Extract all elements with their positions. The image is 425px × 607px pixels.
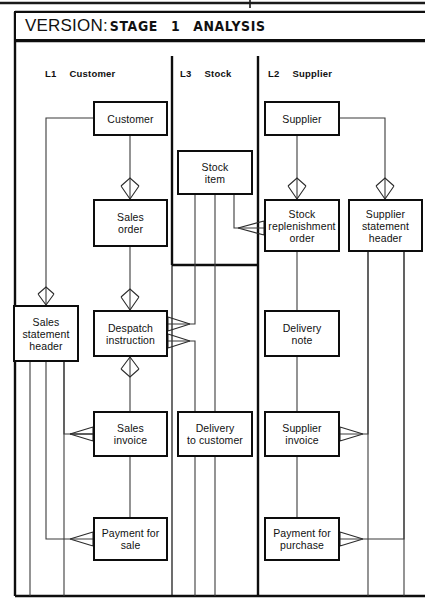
entity-supplier[interactable]: Supplier [264, 101, 340, 136]
entity-label-sales-statement-header: Salesstatementheader [20, 316, 71, 352]
version-phase: ANALYSIS [193, 18, 265, 34]
lane-header-supplier: L2Supplier [268, 68, 332, 79]
entity-label-sales-invoice: Salesinvoice [112, 422, 149, 446]
lane-code-l1: L1 [45, 68, 57, 79]
entity-supplier-invoice[interactable]: Supplierinvoice [264, 411, 340, 457]
lane-header-stock: L3Stock [180, 68, 231, 79]
lane-code-l2: L2 [268, 68, 280, 79]
diagram-lines [0, 0, 425, 607]
lane-name-supplier: Supplier [293, 68, 333, 79]
entity-label-payment-for-purchase: Payment forpurchase [271, 527, 333, 551]
entity-label-supplier-statement-header: Supplierstatementheader [360, 208, 411, 244]
entity-delivery-to-customer[interactable]: Deliveryto customer [177, 411, 253, 457]
crowsfoot-markers [38, 178, 394, 546]
lane-header-customer: L1Customer [45, 68, 115, 79]
entity-delivery-note[interactable]: Deliverynote [264, 310, 340, 357]
entity-payment-for-sale[interactable]: Payment forsale [93, 517, 168, 561]
lane-name-customer: Customer [70, 68, 116, 79]
version-title-bar: VERSION: STAGE1ANALYSIS [14, 11, 425, 41]
entity-supplier-statement-header[interactable]: Supplierstatementheader [348, 199, 423, 252]
entity-label-stock-item: Stockitem [200, 161, 231, 185]
entity-sales-order[interactable]: Salesorder [93, 199, 168, 247]
entity-sales-invoice[interactable]: Salesinvoice [93, 411, 168, 457]
entity-sales-statement-header[interactable]: Salesstatementheader [13, 305, 79, 362]
diagram-canvas: VERSION: STAGE1ANALYSIS L1Customer L3Sto… [0, 0, 425, 607]
version-label: VERSION: [16, 16, 108, 36]
lane-code-l3: L3 [180, 68, 192, 79]
entity-label-payment-for-sale: Payment forsale [100, 527, 162, 551]
entity-label-stock-replenishment-order: Stockreplenishmentorder [266, 208, 337, 244]
entity-label-delivery-note: Deliverynote [281, 322, 324, 346]
entity-label-supplier: Supplier [280, 113, 323, 125]
entity-label-despatch-instruction: Despatchinstruction [104, 322, 157, 346]
entity-despatch-instruction[interactable]: Despatchinstruction [93, 310, 168, 357]
version-stage: STAGE [110, 18, 158, 34]
version-number: 1 [171, 18, 180, 34]
lane-name-stock: Stock [205, 68, 232, 79]
entity-stock-replenishment-order[interactable]: Stockreplenishmentorder [264, 199, 340, 252]
entity-label-customer: Customer [105, 113, 155, 125]
entity-payment-for-purchase[interactable]: Payment forpurchase [264, 517, 340, 561]
entity-stock-item[interactable]: Stockitem [177, 150, 253, 195]
entity-label-supplier-invoice: Supplierinvoice [280, 422, 323, 446]
version-value: STAGE1ANALYSIS [110, 18, 266, 34]
entity-customer[interactable]: Customer [93, 101, 168, 136]
entity-label-sales-order: Salesorder [115, 211, 146, 235]
entity-label-delivery-to-customer: Deliveryto customer [185, 422, 245, 446]
